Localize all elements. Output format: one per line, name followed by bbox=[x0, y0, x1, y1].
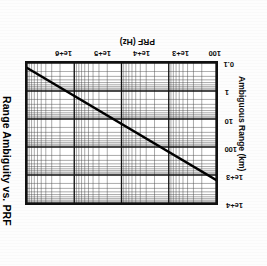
x-tick-label: 1e+4 bbox=[133, 50, 150, 58]
y-tick-label: 100 bbox=[224, 146, 237, 154]
rotated-figure: 100 1e+3 1e+4 1e+5 1e+6 PRF (Hz) 0.1 1 1… bbox=[0, 0, 267, 266]
x-tick-label: 1e+5 bbox=[94, 50, 111, 58]
y-tick-label: 0.1 bbox=[224, 61, 234, 69]
y-tick-label: 10 bbox=[225, 118, 233, 126]
x-tick-label: 100 bbox=[208, 50, 221, 58]
y-tick-label: 1e+4 bbox=[226, 202, 243, 210]
x-tick-label: 1e+6 bbox=[55, 50, 72, 58]
y-tick-label: 1e+3 bbox=[226, 174, 243, 182]
chart-title: Range Ambiguity vs. PRF bbox=[1, 96, 13, 226]
y-axis-title: Ambiguous Range (km) bbox=[237, 76, 247, 171]
plot-area bbox=[25, 61, 218, 205]
x-axis-title: PRF (Hz) bbox=[120, 37, 155, 47]
x-tick-label: 1e+3 bbox=[172, 50, 189, 58]
log-grid bbox=[27, 63, 216, 203]
y-tick-label: 1 bbox=[225, 89, 229, 97]
grid-svg bbox=[27, 63, 216, 203]
